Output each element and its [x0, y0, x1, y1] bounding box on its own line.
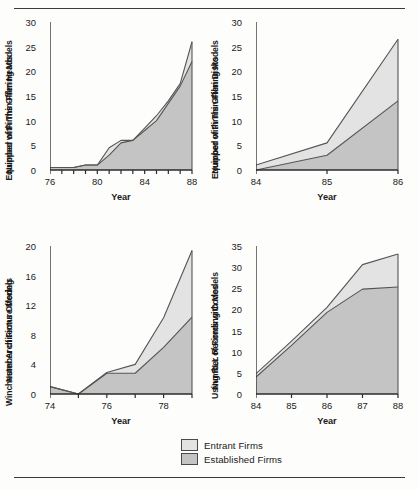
y-axis-tick-label: 20 — [26, 241, 36, 252]
y-axis-tick-label: 15 — [232, 325, 242, 336]
x-axis-tick-label: 86 — [322, 400, 332, 411]
chart-canvas — [256, 246, 412, 403]
chart-canvas — [256, 22, 412, 179]
legend-swatch-entrant — [181, 439, 198, 451]
y-axis-tick-label: 8 — [31, 329, 36, 340]
x-axis-tick-label: 76 — [102, 400, 112, 411]
chart-panel-winchester-architecture: Number of Firms OfferingWinchester Archi… — [4, 240, 210, 454]
y-axis-tick-label: 35 — [232, 241, 242, 252]
y-axis-tick-label: 25 — [26, 41, 36, 52]
y-axis-tick-label: 0 — [31, 165, 36, 176]
plot-area: 051015202530848586Year — [256, 22, 398, 170]
x-axis-tick-label: 84 — [139, 176, 149, 187]
x-axis-tick-label: 86 — [393, 176, 403, 187]
y-axis-tick-label: 15 — [232, 91, 242, 102]
legend-swatch-established — [181, 453, 198, 465]
legend-label-established: Established Firms — [204, 454, 282, 465]
legend-item-entrant: Entrant Firms — [181, 438, 282, 452]
x-axis-tick-label: 78 — [158, 400, 168, 411]
plot-area: 05101520253076808488Year — [50, 22, 192, 170]
x-axis-tick-label: 87 — [357, 400, 367, 411]
y-axis-tick-label: 5 — [237, 367, 242, 378]
x-axis-tick-label: 84 — [251, 176, 261, 187]
x-axis-label: Year — [50, 192, 192, 202]
x-axis-tick-label: 74 — [45, 400, 55, 411]
y-axis-tick-label: 20 — [232, 304, 242, 315]
x-axis-tick-label: 76 — [45, 176, 55, 187]
chart-panel-rll-recording-codes: Number of Firms with ModelsUsing RLL Rec… — [210, 240, 416, 454]
y-axis-tick-label: 12 — [26, 300, 36, 311]
y-axis-label-line2: Equipped with Thin-Film Heads — [4, 33, 14, 203]
x-axis-tick-label: 88 — [393, 400, 403, 411]
y-axis-tick-label: 5 — [31, 140, 36, 151]
x-axis-label: Year — [256, 416, 398, 426]
area-established-firms — [50, 61, 192, 170]
x-axis-label: Year — [256, 192, 398, 202]
x-axis-tick-label: 88 — [187, 176, 197, 187]
x-axis-tick-label: 80 — [92, 176, 102, 187]
figure-legend: Entrant Firms Established Firms — [181, 438, 282, 466]
y-axis-tick-label: 25 — [232, 283, 242, 294]
y-axis-tick-label: 20 — [232, 66, 242, 77]
y-axis-tick-label: 0 — [237, 389, 242, 400]
y-axis-tick-label: 10 — [26, 115, 36, 126]
chart-panel-thin-film-disks: Number of Firms Offering ModelsEquipped … — [210, 16, 416, 230]
x-axis-tick-label: 85 — [286, 400, 296, 411]
y-axis-tick-label: 5 — [237, 140, 242, 151]
plot-area: 051015202530358485868788Year — [256, 246, 398, 394]
x-axis-tick-label: 85 — [322, 176, 332, 187]
legend-item-established: Established Firms — [181, 452, 282, 466]
bottom-divider-rule — [14, 477, 405, 478]
y-axis-tick-label: 0 — [31, 389, 36, 400]
y-axis-tick-label: 25 — [232, 41, 242, 52]
y-axis-tick-label: 30 — [26, 17, 36, 28]
y-axis-tick-label: 20 — [26, 66, 36, 77]
y-axis-tick-label: 10 — [232, 115, 242, 126]
y-axis-label-line2: Winchester Architecture Models — [4, 257, 14, 427]
y-axis-tick-label: 30 — [232, 262, 242, 273]
y-axis-tick-label: 16 — [26, 270, 36, 281]
y-axis-tick-label: 10 — [232, 346, 242, 357]
area-established-firms — [256, 287, 398, 394]
x-axis-tick-label: 84 — [251, 400, 261, 411]
chart-canvas — [50, 22, 206, 179]
chart-canvas — [50, 246, 206, 403]
legend-label-entrant: Entrant Firms — [204, 440, 263, 451]
plot-area: 048121620747678Year — [50, 246, 192, 394]
y-axis-tick-label: 30 — [232, 17, 242, 28]
chart-panel-thin-film-heads: Number of Firms Offering ModelsEquipped … — [4, 16, 210, 230]
y-axis-label-line2: Using RLL Recording Codes — [210, 257, 220, 427]
top-divider-rule — [14, 8, 405, 9]
y-axis-tick-label: 15 — [26, 91, 36, 102]
y-axis-tick-label: 4 — [31, 359, 36, 370]
x-axis-label: Year — [50, 416, 192, 426]
y-axis-label-line2: Equipped with Thin-Film Disks — [210, 33, 220, 203]
y-axis-tick-label: 0 — [237, 165, 242, 176]
